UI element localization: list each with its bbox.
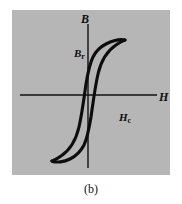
b-axis-label: B xyxy=(81,13,89,25)
remanence-label: Br xyxy=(74,48,85,61)
h-axis-label: H xyxy=(159,91,168,103)
hysteresis-plot xyxy=(12,10,170,175)
plot-panel: Br Hc xyxy=(12,10,170,175)
coercivity-label: Hc xyxy=(119,112,131,125)
figure-caption: (b) xyxy=(0,183,182,195)
coercivity-subscript: c xyxy=(128,116,132,125)
hysteresis-figure: Br Hc B H (b) xyxy=(0,0,182,204)
remanence-subscript: r xyxy=(81,52,85,61)
